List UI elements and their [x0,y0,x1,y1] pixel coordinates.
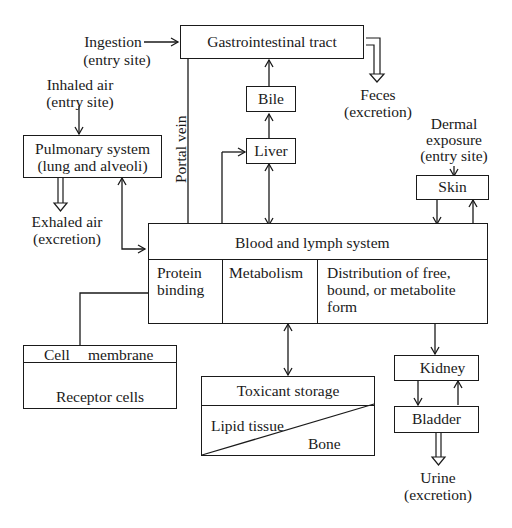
lipid-tissue-text: Lipid tissue [211,417,284,434]
metabolism-cell: Metabolism [229,264,303,281]
inhaled-air-label: Inhaled air (entry site) [40,76,120,110]
exhaled-text: Exhaled air [24,213,110,230]
dermal-entry-text: (entry site) [414,148,494,164]
divider [149,259,487,260]
receptor-cells-text: Receptor cells [24,388,176,405]
divider [202,405,374,406]
divider [222,259,223,324]
inhaled-air-entry-text: (entry site) [40,93,120,110]
feces-label: Feces (excretion) [333,86,423,120]
cell-text: Cell [44,346,70,363]
pulmonary-text: Pulmonary system [24,140,161,157]
distribution-line3: form [327,298,456,315]
distribution-cell: Distribution of free, bound, or metaboli… [327,264,456,315]
feces-text: Feces [333,86,423,103]
pulmonary-system-box: Pulmonary system (lung and alveoli) [23,135,162,178]
cell-membrane-box: Cell membrane Receptor cells [23,345,177,409]
binding-text: binding [157,281,204,298]
distribution-line1: Distribution of free, [327,264,456,281]
protein-text: Protein [157,264,204,281]
kidney-box: Kidney [394,355,479,381]
liver-box: Liver [246,138,296,164]
membrane-text: membrane [88,346,153,363]
feces-excretion-text: (excretion) [333,103,423,120]
ingestion-entry-site-label: (entry site) [78,51,156,68]
dermal-text: Dermal [414,116,494,132]
dermal-exposure-label: Dermal exposure (entry site) [414,116,494,164]
urine-text: Urine [395,469,481,486]
inhaled-air-text: Inhaled air [40,76,120,93]
blood-lymph-title: Blood and lymph system [235,234,390,251]
skin-box: Skin [416,175,489,200]
lung-alveoli-text: (lung and alveoli) [24,157,161,174]
exposure-text: exposure [414,132,494,148]
ingestion-label: Ingestion [78,33,148,50]
bone-text: Bone [308,435,341,452]
bile-box: Bile [246,86,296,112]
bladder-box: Bladder [394,406,479,433]
exhaled-excretion-text: (excretion) [24,230,110,247]
blood-lymph-system-box: Blood and lymph system Protein binding M… [148,223,488,324]
urine-label: Urine (excretion) [395,469,481,503]
toxicant-storage-title: Toxicant storage [202,382,374,399]
protein-binding-cell: Protein binding [157,264,204,298]
ingestion-text: Ingestion [78,33,148,50]
toxicant-storage-box: Toxicant storage Lipid tissue Bone [201,376,375,456]
distribution-line2: bound, or metabolite [327,281,456,298]
urine-excretion-text: (excretion) [395,486,481,503]
portal-vein-label: Portal vein [172,115,190,183]
gastrointestinal-tract-box: Gastrointestinal tract [180,25,364,59]
divider [317,259,318,324]
exhaled-air-label: Exhaled air (excretion) [24,213,110,247]
